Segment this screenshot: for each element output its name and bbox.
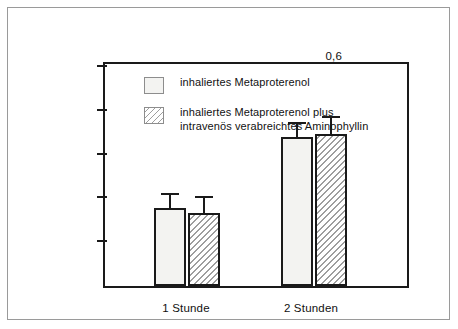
y-tick-0-15 — [97, 240, 107, 242]
bar-2stunden-metaproterenol-plus-aminophyllin — [315, 134, 347, 286]
y-tick-0-6 — [97, 109, 107, 111]
figure-outer-frame: Veränderung in der FEV1 (l) 0,6 0,3 1 St… — [7, 7, 450, 320]
legend-swatch-hatched-icon — [144, 107, 164, 124]
legend-label-metaproterenol-line1: inhaliertes Metaproterenol — [180, 76, 310, 88]
y-tick-0-75 — [97, 65, 107, 67]
errorbar-stem-1stunde-metaproterenol — [169, 195, 171, 208]
bar-1stunde-metaproterenol — [154, 208, 186, 286]
y-tick-0-3 — [97, 196, 107, 198]
plot-area: inhaliertes Metaproterenol inhaliertes M… — [103, 62, 409, 288]
bar-2stunden-metaproterenol — [281, 137, 313, 286]
y-tick-label-0-6: 0,6 — [325, 50, 342, 62]
x-axis-label-2-stunden: 2 Stunden — [256, 302, 366, 314]
y-tick-0-45 — [97, 153, 107, 155]
legend-label-plus-line1: inhaliertes Metaproterenol plus — [180, 106, 334, 118]
x-axis-label-1-stunde: 1 Stunde — [131, 302, 241, 314]
legend-label-plus-line2: intravenös verabreichtes Aminophyllin — [180, 120, 368, 132]
errorbar-cap-1stunde-metaproterenol-plus-aminophyllin — [195, 196, 213, 198]
errorbar-stem-1stunde-metaproterenol-plus-aminophyllin — [203, 198, 205, 213]
legend-label-metaproterenol-plus-aminophyllin: inhaliertes Metaproterenol plus intraven… — [180, 106, 368, 133]
legend-entry-metaproterenol-plus-aminophyllin: inhaliertes Metaproterenol plus intraven… — [144, 106, 368, 133]
bar-1stunde-metaproterenol-plus-aminophyllin — [188, 213, 220, 286]
legend-entry-metaproterenol: inhaliertes Metaproterenol — [144, 76, 310, 94]
legend-swatch-plain-icon — [144, 77, 164, 94]
legend-label-metaproterenol: inhaliertes Metaproterenol — [180, 76, 310, 90]
errorbar-cap-1stunde-metaproterenol — [161, 193, 179, 195]
